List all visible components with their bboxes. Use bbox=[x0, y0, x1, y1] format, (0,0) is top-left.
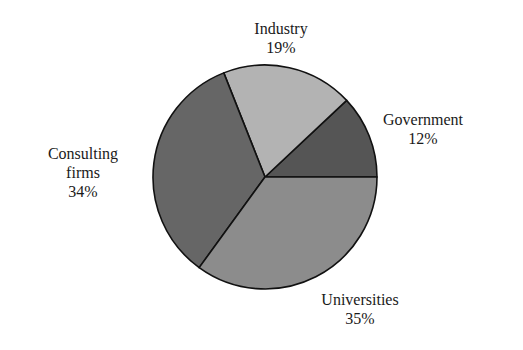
label-government-name: Government bbox=[368, 110, 478, 129]
label-government: Government 12% bbox=[368, 110, 478, 148]
label-universities-pct: 35% bbox=[300, 309, 420, 328]
label-industry: Industry 19% bbox=[236, 19, 326, 57]
label-universities: Universities 35% bbox=[300, 290, 420, 328]
label-consulting: Consulting firms 34% bbox=[28, 144, 138, 201]
label-consulting-name1: Consulting bbox=[28, 144, 138, 163]
label-consulting-pct: 34% bbox=[28, 182, 138, 201]
label-consulting-name2: firms bbox=[28, 163, 138, 182]
label-government-pct: 12% bbox=[368, 129, 478, 148]
label-universities-name: Universities bbox=[300, 290, 420, 309]
label-industry-pct: 19% bbox=[236, 38, 326, 57]
label-industry-name: Industry bbox=[236, 19, 326, 38]
